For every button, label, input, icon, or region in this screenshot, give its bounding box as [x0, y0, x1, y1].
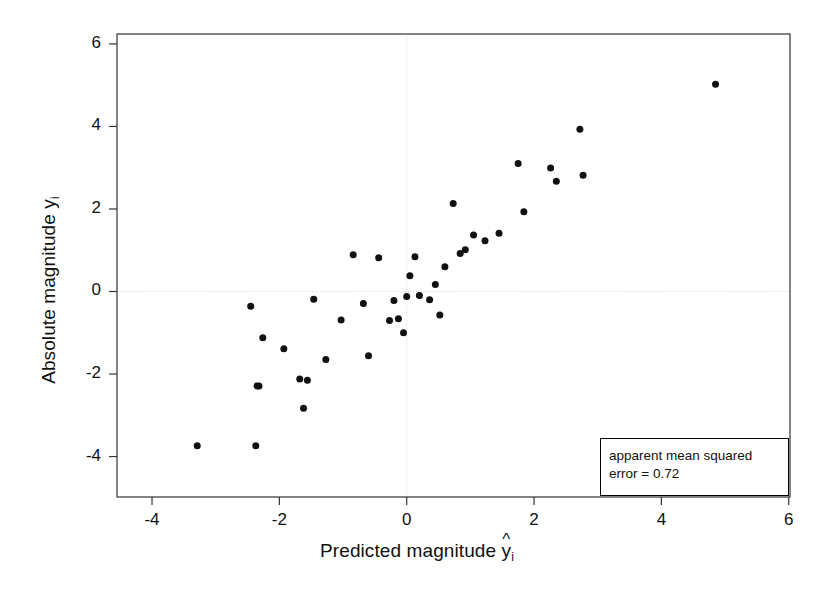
data-point [411, 253, 418, 260]
data-point [482, 237, 489, 244]
data-point [462, 246, 469, 253]
data-point [395, 315, 402, 322]
legend-line-2: error = 0.72 [609, 465, 787, 483]
data-point [247, 303, 254, 310]
data-point [470, 231, 477, 238]
y-axis-title-symbol: y [38, 199, 59, 209]
axis-ticks [109, 44, 789, 505]
data-point [406, 272, 413, 279]
data-point [386, 317, 393, 324]
data-point [390, 297, 397, 304]
data-point [580, 172, 587, 179]
data-point [365, 352, 372, 359]
data-point [426, 296, 433, 303]
x-tick-label: -4 [127, 510, 177, 530]
x-axis-title-main: Predicted magnitude [320, 540, 496, 561]
data-point [576, 126, 583, 133]
data-point [515, 160, 522, 167]
hat-accent-icon: ^ [502, 531, 512, 548]
x-axis-title-subscript: i [511, 550, 514, 564]
legend-text: apparent mean squared error = 0.72 [609, 447, 787, 483]
data-point [441, 263, 448, 270]
y-axis-title: Absolute magnitude yi [38, 70, 62, 510]
data-point [338, 316, 345, 323]
y-tick-label: 6 [61, 33, 101, 53]
y-tick-label: 4 [61, 115, 101, 135]
data-point [712, 81, 719, 88]
data-point [416, 292, 423, 299]
data-point [255, 382, 262, 389]
data-point [432, 281, 439, 288]
reference-grid [117, 34, 790, 497]
data-point [280, 345, 287, 352]
data-point [553, 178, 560, 185]
x-tick-label: -2 [254, 510, 304, 530]
data-point [310, 296, 317, 303]
data-point [400, 329, 407, 336]
y-hat-symbol: ^ y [502, 540, 512, 562]
data-point [520, 208, 527, 215]
y-axis-title-subscript: i [48, 196, 62, 199]
y-axis-title-main: Absolute magnitude [38, 214, 59, 384]
y-tick-label: -2 [61, 363, 101, 383]
data-point [194, 442, 201, 449]
data-point [322, 356, 329, 363]
data-points [194, 81, 719, 449]
y-tick-label: 2 [61, 198, 101, 218]
scatter-plot-figure: -4-20246 -4-20246 Predicted magnitude ^ … [0, 0, 834, 601]
legend-line-1: apparent mean squared [609, 447, 787, 465]
data-point [296, 375, 303, 382]
data-point [350, 251, 357, 258]
data-point [259, 334, 266, 341]
data-point [375, 254, 382, 261]
x-tick-label: 6 [764, 510, 814, 530]
plot-frame [117, 34, 790, 497]
data-point [496, 230, 503, 237]
x-tick-label: 2 [509, 510, 559, 530]
x-axis-title: Predicted magnitude ^ y i [0, 540, 834, 564]
data-point [547, 165, 554, 172]
x-tick-label: 0 [382, 510, 432, 530]
data-point [360, 300, 367, 307]
x-tick-label: 4 [636, 510, 686, 530]
data-point [252, 442, 259, 449]
y-tick-label: -4 [61, 446, 101, 466]
data-point [450, 200, 457, 207]
y-tick-label: 0 [61, 280, 101, 300]
data-point [300, 405, 307, 412]
data-point [403, 293, 410, 300]
data-point [304, 377, 311, 384]
data-point [436, 312, 443, 319]
